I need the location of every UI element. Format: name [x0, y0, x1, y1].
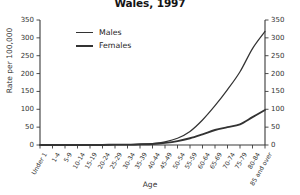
legend-label-males: Males [99, 28, 122, 37]
legend-swatch-males-icon [76, 32, 93, 33]
legend-item-males: Males [76, 26, 131, 39]
plot-area [0, 0, 300, 195]
axes-group [37, 20, 269, 149]
series-line-males [40, 31, 265, 145]
chart-container: Wales, 1997 Rate per 100,000 Age 0501001… [0, 0, 300, 195]
series-line-females [40, 110, 265, 145]
legend-swatch-females-icon [76, 45, 93, 47]
chart-legend: Males Females [76, 26, 131, 52]
legend-label-females: Females [99, 41, 131, 50]
legend-item-females: Females [76, 39, 131, 52]
